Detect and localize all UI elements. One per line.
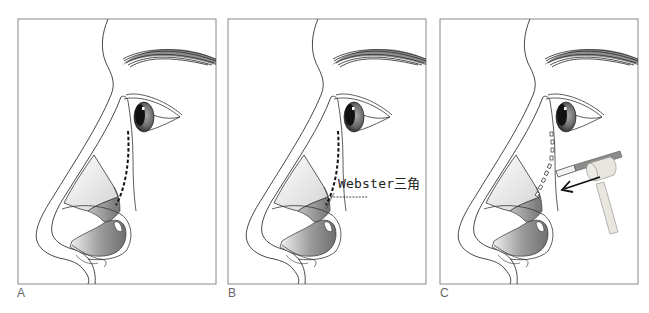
panel-label-a: A [17,286,25,300]
webster-triangle-label: Webster三角 [338,173,421,192]
nose-illustration-a [18,19,216,284]
panel-label-c: C [440,286,449,300]
panel-label-b: B [228,286,236,300]
panel-b: Webster三角 [228,19,426,284]
panel-c [440,19,638,284]
nose-illustration-b [228,19,426,284]
panel-a [18,19,216,284]
nose-illustration-c [440,19,638,284]
